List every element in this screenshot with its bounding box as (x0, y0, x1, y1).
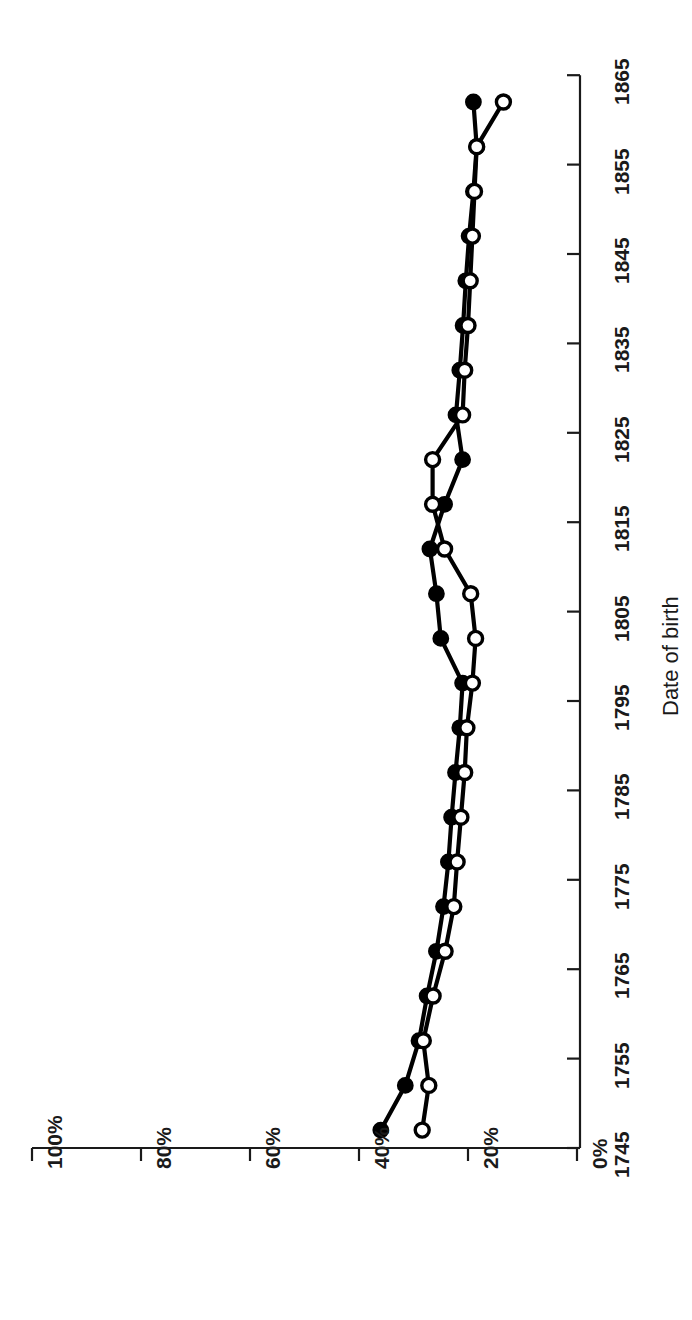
data-point-open (416, 1034, 430, 1048)
data-point-open (464, 587, 478, 601)
chart-axes (32, 75, 580, 1161)
data-point-open (465, 229, 479, 243)
year-tick-label: 1785 (610, 774, 634, 821)
data-point-open (460, 721, 474, 735)
data-point-filled (455, 452, 470, 467)
data-point-open (463, 274, 477, 288)
data-point-open (426, 989, 440, 1003)
percent-tick-label: 20% (479, 1127, 503, 1169)
data-point-filled (466, 95, 481, 110)
data-point-open (438, 944, 452, 958)
year-tick-label: 1745 (610, 1131, 634, 1178)
data-point-open (468, 184, 482, 198)
year-tick-label: 1765 (610, 952, 634, 999)
data-point-open (469, 631, 483, 645)
year-tick-label: 1865 (610, 58, 634, 105)
chart-series-group (373, 95, 510, 1138)
data-point-open (426, 453, 440, 467)
year-tick-label: 1795 (610, 684, 634, 731)
year-tick-label: 1775 (610, 863, 634, 910)
data-point-open (422, 1078, 436, 1092)
percent-tick-label: 80% (152, 1127, 176, 1169)
year-tick-label: 1845 (610, 237, 634, 284)
data-point-open (465, 676, 479, 690)
data-point-open (470, 140, 484, 154)
percent-tick-label: 100% (43, 1115, 67, 1169)
data-point-filled (398, 1078, 413, 1093)
data-point-open (458, 766, 472, 780)
chart-figure: 0%20%40%60%80%100%1745175517651775178517… (0, 0, 692, 1320)
data-point-open (450, 855, 464, 869)
year-tick-label: 1825 (610, 416, 634, 463)
data-point-filled (429, 586, 444, 601)
data-point-open (454, 810, 468, 824)
year-tick-label: 1855 (610, 148, 634, 195)
data-point-open (447, 900, 461, 914)
data-point-open (461, 319, 475, 333)
year-tick-label: 1805 (610, 595, 634, 642)
data-point-open (456, 408, 470, 422)
year-tick-label: 1815 (610, 505, 634, 552)
data-point-open (438, 542, 452, 556)
percent-tick-label: 40% (370, 1127, 394, 1169)
percent-tick-label: 0% (588, 1139, 612, 1169)
data-point-open (426, 497, 440, 511)
year-tick-label: 1755 (610, 1042, 634, 1089)
data-point-filled (433, 631, 448, 646)
chart-plot-area (0, 0, 692, 1320)
data-point-open (496, 95, 510, 109)
data-point-filled (423, 542, 438, 557)
year-tick-label: 1835 (610, 327, 634, 374)
percent-tick-label: 60% (261, 1127, 285, 1169)
data-point-open (415, 1123, 429, 1137)
x-axis-title: Date of birth (658, 596, 684, 716)
data-point-open (458, 363, 472, 377)
